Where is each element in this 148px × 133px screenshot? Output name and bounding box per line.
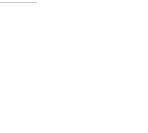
function-graph <box>0 0 148 133</box>
